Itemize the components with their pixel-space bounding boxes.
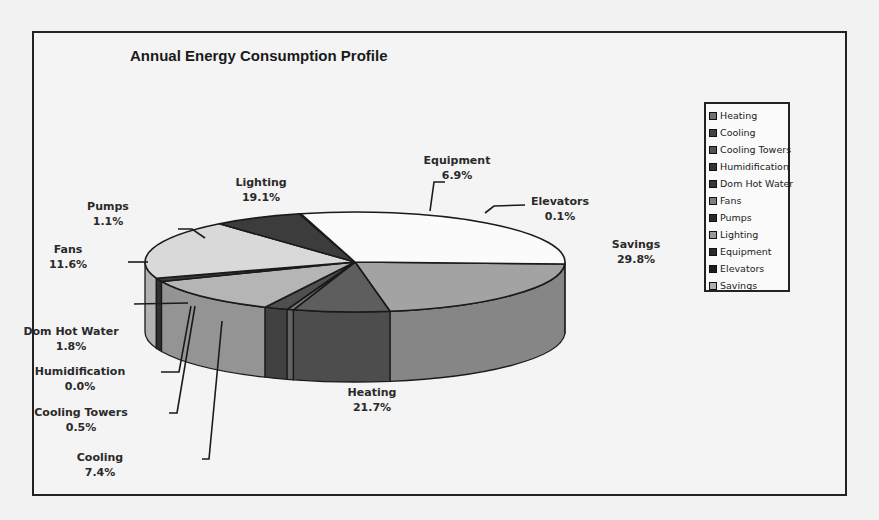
legend-label: Cooling xyxy=(720,127,756,138)
legend-swatch xyxy=(709,248,717,256)
pie-side-cooling-towers xyxy=(287,309,293,379)
data-value-equipment: 6.9% xyxy=(442,169,473,182)
legend-item-fans: Fans xyxy=(709,192,788,209)
data-value-cooling: 7.4% xyxy=(85,466,116,479)
legend-label: Humidification xyxy=(720,161,789,172)
legend-swatch xyxy=(709,146,717,154)
legend-label: Elevators xyxy=(720,263,764,274)
legend-item-cooling-towers: Cooling Towers xyxy=(709,141,788,158)
legend-swatch xyxy=(709,197,717,205)
data-label-humidification: Humidification xyxy=(35,365,125,378)
legend-item-elevators: Elevators xyxy=(709,260,788,277)
leader-line xyxy=(485,205,525,213)
legend-swatch xyxy=(709,112,717,120)
data-value-savings: 29.8% xyxy=(617,253,655,266)
leader-line xyxy=(430,182,445,211)
legend-item-equipment: Equipment xyxy=(709,243,788,260)
legend-swatch xyxy=(709,163,717,171)
data-label-equipment: Equipment xyxy=(424,154,491,167)
legend-swatch xyxy=(709,214,717,222)
legend-label: Equipment xyxy=(720,246,772,257)
data-value-dom-hot-water: 1.8% xyxy=(56,340,87,353)
data-value-fans: 11.6% xyxy=(49,258,87,271)
legend-item-heating: Heating xyxy=(709,107,788,124)
legend-item-savings: Savings xyxy=(709,277,788,294)
legend-item-lighting: Lighting xyxy=(709,226,788,243)
pie-side-dom-hot-water xyxy=(265,307,287,379)
data-label-dom-hot-water: Dom Hot Water xyxy=(23,325,119,338)
legend-label: Fans xyxy=(720,195,741,206)
data-label-pumps: Pumps xyxy=(87,200,129,213)
data-value-lighting: 19.1% xyxy=(242,191,280,204)
data-value-cooling-towers: 0.5% xyxy=(66,421,97,434)
data-label-elevators: Elevators xyxy=(531,195,590,208)
legend-label: Pumps xyxy=(720,212,752,223)
pie-side-pumps xyxy=(156,278,161,351)
data-label-cooling: Cooling xyxy=(77,451,123,464)
legend-swatch xyxy=(709,231,717,239)
chart-legend: HeatingCoolingCooling TowersHumidificati… xyxy=(704,102,790,292)
legend-swatch xyxy=(709,265,717,273)
legend-swatch xyxy=(709,282,717,290)
legend-label: Heating xyxy=(720,110,757,121)
legend-item-cooling: Cooling xyxy=(709,124,788,141)
data-value-heating: 21.7% xyxy=(353,401,391,414)
data-label-cooling-towers: Cooling Towers xyxy=(34,406,128,419)
legend-label: Savings xyxy=(720,280,757,291)
pie-side-cooling xyxy=(293,310,390,382)
legend-item-pumps: Pumps xyxy=(709,209,788,226)
legend-label: Lighting xyxy=(720,229,758,240)
data-value-elevators: 0.1% xyxy=(545,210,576,223)
data-label-lighting: Lighting xyxy=(235,176,286,189)
data-label-savings: Savings xyxy=(612,238,661,251)
data-value-pumps: 1.1% xyxy=(93,215,124,228)
legend-label: Cooling Towers xyxy=(720,144,791,155)
legend-item-dom-hot-water: Dom Hot Water xyxy=(709,175,788,192)
leader-line xyxy=(134,303,188,304)
legend-swatch xyxy=(709,129,717,137)
legend-swatch xyxy=(709,180,717,188)
data-value-humidification: 0.0% xyxy=(65,380,96,393)
legend-item-humidification: Humidification xyxy=(709,158,788,175)
data-label-heating: Heating xyxy=(348,386,397,399)
legend-label: Dom Hot Water xyxy=(720,178,793,189)
data-label-fans: Fans xyxy=(54,243,83,256)
